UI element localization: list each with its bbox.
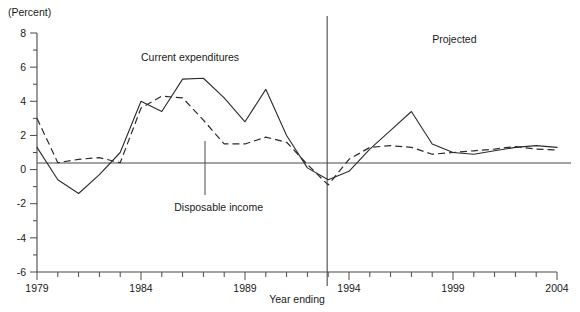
y-axis-tick-label: 2 [20, 129, 26, 141]
series-line-current-expenditures [37, 78, 557, 193]
y-axis-tick-label: 4 [20, 95, 26, 107]
y-axis-tick-label: 8 [20, 27, 26, 39]
y-axis-minor-ticks [33, 50, 37, 255]
x-axis-tick-label: 2004 [545, 282, 569, 294]
y-axis: 86420-2-4-6 [17, 27, 37, 278]
x-axis-tick-label: 1979 [25, 282, 49, 294]
y-axis-tick-labels: 86420-2-4-6 [17, 27, 27, 278]
current-expenditures-label: Current expenditures [141, 51, 239, 63]
chart-container: (Percent) 86420-2-4-6 197919841989199419… [0, 0, 580, 312]
y-axis-tick-label: -2 [17, 197, 26, 209]
y-axis-tick-label: -6 [17, 266, 26, 278]
y-axis-tick-label: 0 [20, 163, 26, 175]
x-axis-title: Year ending [269, 293, 325, 305]
disposable-income-label: Disposable income [174, 201, 263, 213]
x-axis: 197919841989199419992004 Year ending [25, 272, 569, 305]
x-axis-tick-label: 1989 [233, 282, 257, 294]
x-axis-ticks [37, 272, 557, 280]
x-axis-tick-label: 1999 [441, 282, 465, 294]
y-axis-tick-label: -4 [17, 232, 26, 244]
y-axis-unit-label: (Percent) [8, 6, 51, 18]
series-line-disposable-income [37, 96, 557, 185]
y-axis-tick-label: 6 [20, 61, 26, 73]
x-axis-tick-label: 1984 [129, 282, 153, 294]
x-axis-tick-label: 1994 [337, 282, 361, 294]
line-chart: (Percent) 86420-2-4-6 197919841989199419… [0, 0, 580, 312]
projected-label: Projected [432, 33, 477, 45]
